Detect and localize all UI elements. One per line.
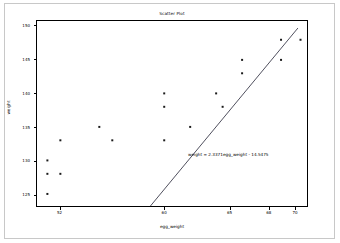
scatter-point — [300, 39, 302, 41]
scatter-plot-svg — [37, 21, 307, 206]
scatter-point — [280, 39, 282, 41]
y-tick-label: 140 — [8, 91, 30, 96]
scatter-point — [111, 139, 113, 141]
x-tick-label: 68 — [257, 210, 281, 215]
plot-axes-area — [36, 20, 308, 207]
y-tick-label: 125 — [8, 192, 30, 197]
scatter-point — [163, 139, 165, 141]
x-axis-label: egg_weight — [36, 224, 308, 229]
page-title: Scatter Plot — [36, 10, 308, 18]
scatter-point — [46, 159, 48, 161]
regression-line — [47, 28, 298, 206]
scatter-point — [163, 92, 165, 94]
y-tick-label: 135 — [8, 125, 30, 130]
scatter-point — [241, 72, 243, 74]
y-tick-label: 130 — [8, 158, 30, 163]
y-tick-label: 150 — [8, 23, 30, 28]
scatter-point — [46, 173, 48, 175]
scatter-point — [59, 173, 61, 175]
figure-canvas: Scatter Plot weight egg_weight 125130135… — [0, 0, 340, 243]
scatter-point — [46, 193, 48, 195]
scatter-point — [222, 106, 224, 108]
x-tick-label: 65 — [218, 210, 242, 215]
scatter-point — [189, 126, 191, 128]
x-tick-label: 70 — [283, 210, 307, 215]
y-tick-label: 145 — [8, 57, 30, 62]
regression-equation-annotation: weight = 2.3371egg_weight - 14.5475 — [188, 152, 269, 157]
scatter-point — [59, 139, 61, 141]
scatter-point — [241, 59, 243, 61]
scatter-point — [280, 59, 282, 61]
x-tick-label: 60 — [152, 210, 176, 215]
scatter-point — [98, 126, 100, 128]
scatter-point — [163, 106, 165, 108]
scatter-points-group — [46, 39, 301, 195]
fit-line — [47, 28, 298, 206]
scatter-point — [215, 92, 217, 94]
x-tick-label: 52 — [48, 210, 72, 215]
